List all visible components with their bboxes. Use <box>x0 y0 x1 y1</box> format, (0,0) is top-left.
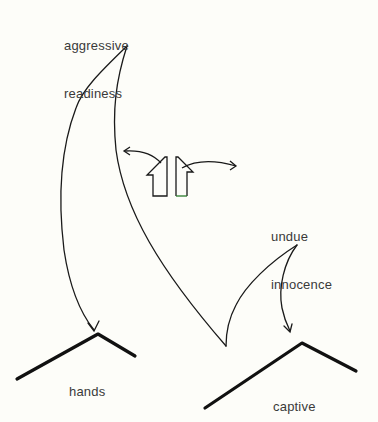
label-hands-hedge-shears: hands as hedge- shears! <box>69 352 129 422</box>
label-aggressive-readiness: aggressive readiness <box>64 6 129 118</box>
label-line: captive <box>273 399 334 415</box>
label-undue-innocence: undue innocence <box>271 197 332 309</box>
label-line: readiness <box>64 86 129 102</box>
label-line: hands <box>69 384 129 400</box>
label-line: innocence <box>271 277 332 293</box>
label-line: undue <box>271 229 332 245</box>
label-captive-deer: captive deer in back seat! <box>273 367 334 422</box>
label-line: aggressive <box>64 38 129 54</box>
double-arrow-icon <box>124 147 236 196</box>
